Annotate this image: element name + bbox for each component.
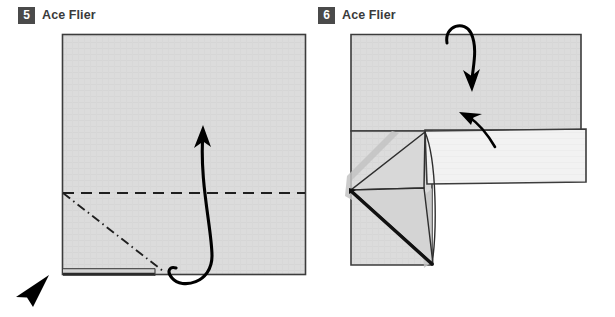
- pointer-arrowhead-icon: [16, 275, 49, 307]
- origami-diagrams-canvas: [0, 0, 615, 317]
- white-flap-step6: [425, 129, 586, 184]
- step-6-diagram: [345, 26, 586, 268]
- bottom-flap-edge-step5: [63, 268, 155, 276]
- step-5-diagram: [16, 35, 306, 308]
- instruction-page: 5 Ace Flier 6 Ace Flier: [0, 0, 615, 317]
- paper-square-step5: [63, 35, 306, 275]
